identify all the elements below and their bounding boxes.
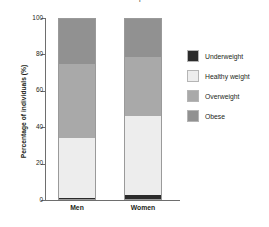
y-tick-label: 60 — [36, 86, 43, 93]
legend-item-overweight[interactable]: Overweight — [187, 86, 269, 106]
bar-women[interactable] — [124, 18, 162, 200]
x-tick-label-women: Women — [118, 204, 168, 211]
legend-swatch-icon — [187, 110, 199, 122]
x-axis-line — [45, 200, 180, 201]
legend-item-underweight[interactable]: Underweight — [187, 46, 269, 66]
y-tick-label: 100 — [32, 14, 43, 21]
plot-area: 020406080100 Men Women — [45, 18, 180, 200]
y-tick-label: 80 — [36, 50, 43, 57]
bar-segment-healthy-weight[interactable] — [59, 138, 95, 198]
bar-segment-healthy-weight[interactable] — [125, 116, 161, 195]
bar-segment-obese[interactable] — [59, 19, 95, 64]
chart-figure: and women in a sample Percentage of indi… — [0, 0, 269, 227]
legend-label: Underweight — [205, 53, 243, 60]
y-tick-label: 40 — [36, 123, 43, 130]
y-axis-line — [45, 18, 46, 200]
legend-label: Obese — [205, 113, 225, 120]
legend-swatch-icon — [187, 70, 199, 82]
bar-men[interactable] — [58, 18, 96, 200]
legend-swatch-icon — [187, 50, 199, 62]
bar-segment-overweight[interactable] — [125, 57, 161, 116]
bar-segment-underweight[interactable] — [59, 198, 95, 199]
legend-item-obese[interactable]: Obese — [187, 106, 269, 126]
bar-segment-obese[interactable] — [125, 19, 161, 57]
y-tick-label: 0 — [39, 196, 43, 203]
chart-title: and women in a sample — [30, 0, 190, 2]
legend-item-healthy-weight[interactable]: Healthy weight — [187, 66, 269, 86]
bar-segment-underweight[interactable] — [125, 195, 161, 199]
x-tick-label-men: Men — [52, 204, 102, 211]
legend-swatch-icon — [187, 90, 199, 102]
legend-label: Overweight — [205, 93, 239, 100]
y-tick-label: 20 — [36, 159, 43, 166]
y-axis-title: Percentage of individuals (%) — [20, 37, 27, 187]
bar-segment-overweight[interactable] — [59, 64, 95, 138]
chart-legend: UnderweightHealthy weightOverweightObese — [187, 46, 269, 126]
legend-label: Healthy weight — [205, 73, 250, 80]
